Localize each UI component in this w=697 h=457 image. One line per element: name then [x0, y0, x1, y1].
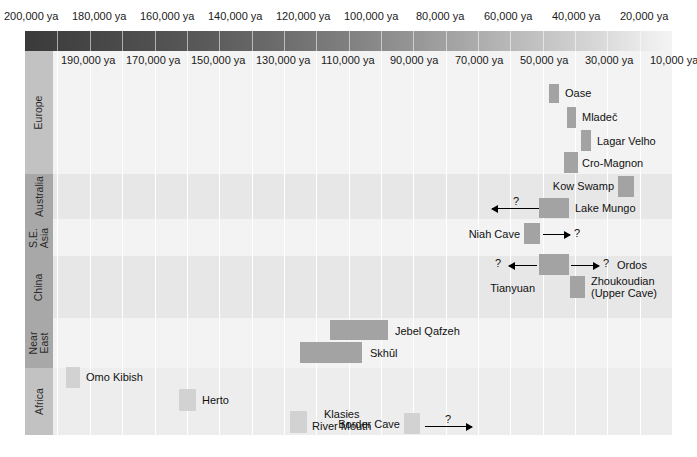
arrow-ordos-right: [571, 265, 599, 266]
axis-top-tick: 200,000 ya: [4, 10, 58, 22]
label-tianyuan: Tianyuan: [425, 282, 535, 294]
bar-zhoukoudian: [570, 276, 585, 298]
label-herto: Herto: [202, 394, 229, 406]
label-kow-swamp: Kow Swamp: [490, 180, 614, 192]
region-europe: Europe: [25, 51, 53, 174]
region-label: Near East: [28, 332, 50, 355]
bar-lake-mungo: [539, 198, 569, 218]
axis-top-tick: 180,000 ya: [72, 10, 126, 22]
axis-inner-tick: 170,000 ya: [126, 54, 180, 66]
bar-ordos: [539, 254, 569, 275]
axis-top-tick: 160,000 ya: [140, 10, 194, 22]
label-oase: Oase: [565, 87, 591, 99]
region-africa: Africa: [25, 368, 53, 435]
arrow-lake-mungo-left: [492, 208, 539, 209]
axis-top-tick: 40,000 ya: [552, 10, 600, 22]
bar-jebel-qafzeh: [330, 320, 388, 340]
time-gradient-bar: [25, 31, 672, 51]
arrow-niah-cave-right: [543, 234, 570, 235]
label-lake-mungo: Lake Mungo: [575, 202, 636, 214]
bar-mladec: [567, 107, 576, 128]
bar-skhul: [300, 342, 362, 363]
question-ordos-left: ?: [495, 257, 501, 269]
axis-top-tick: 60,000 ya: [484, 10, 532, 22]
axis-inner-tick: 150,000 ya: [191, 54, 245, 66]
region-label: Africa: [34, 388, 45, 415]
region-china: China: [25, 256, 53, 318]
label-niah-cave: Niah Cave: [400, 228, 520, 240]
bar-niah-cave: [524, 223, 540, 244]
axis-inner-tick: 30,000 ya: [585, 54, 633, 66]
region-label: Europe: [34, 96, 45, 130]
axis-top-tick: 140,000 ya: [208, 10, 262, 22]
bar-herto: [179, 389, 196, 411]
axis-inner-tick: 90,000 ya: [390, 54, 438, 66]
label-zhoukoudian-line2: (Upper Cave): [591, 287, 657, 299]
bar-omo-kibish: [66, 367, 80, 388]
axis-top-tick: 100,000 ya: [344, 10, 398, 22]
label-mladec: Mladeč: [582, 111, 617, 123]
arrow-border-cave-right: [425, 426, 472, 427]
label-ordos: Ordos: [617, 259, 647, 271]
region-se-asia: S.E. Asia: [25, 219, 53, 256]
bar-oase: [549, 84, 559, 103]
bar-kow-swamp: [618, 176, 634, 197]
label-omo-kibish: Omo Kibish: [86, 371, 143, 383]
bar-cro-magnon: [564, 152, 578, 173]
label-skhul: Skhūl: [370, 347, 398, 359]
bar-lagar-velho: [581, 130, 591, 151]
question-ordos-right: ?: [603, 257, 609, 269]
question-lake-mungo: ?: [513, 195, 519, 207]
region-australia: Australia: [25, 174, 53, 219]
axis-inner-tick: 190,000 ya: [61, 54, 115, 66]
bar-border-cave: [404, 413, 420, 434]
label-border-cave: Border Cave: [280, 418, 400, 430]
question-niah-cave: ?: [574, 227, 580, 239]
axis-inner-tick: 110,000 ya: [321, 54, 375, 66]
timeline-chart: 200,000 ya 180,000 ya 160,000 ya 140,000…: [0, 0, 697, 457]
region-label-column: Europe Australia S.E. Asia China Near Ea…: [25, 51, 53, 435]
axis-top: 200,000 ya 180,000 ya 160,000 ya 140,000…: [0, 10, 697, 26]
region-label: S.E. Asia: [28, 227, 50, 247]
axis-top-tick: 20,000 ya: [620, 10, 668, 22]
plot-area: 190,000 ya 170,000 ya 150,000 ya 130,000…: [25, 51, 672, 435]
axis-top-tick: 80,000 ya: [416, 10, 464, 22]
region-label: Australia: [34, 176, 45, 217]
region-label: China: [34, 273, 45, 300]
axis-inner-tick: 50,000 ya: [520, 54, 568, 66]
axis-inner-tick: 10,000 ya: [650, 54, 697, 66]
axis-top-tick: 120,000 ya: [276, 10, 330, 22]
region-near-east: Near East: [25, 318, 53, 368]
axis-inner-tick: 130,000 ya: [256, 54, 310, 66]
label-zhoukoudian-line1: Zhoukoudian: [591, 275, 655, 287]
axis-inner: 190,000 ya 170,000 ya 150,000 ya 130,000…: [25, 54, 672, 70]
label-jebel-qafzeh: Jebel Qafzeh: [395, 325, 460, 337]
question-border-cave: ?: [445, 413, 451, 425]
label-cro-magnon: Cro-Magnon: [582, 157, 643, 169]
axis-inner-tick: 70,000 ya: [455, 54, 503, 66]
arrow-ordos-left: [509, 265, 537, 266]
label-lagar-velho: Lagar Velho: [597, 135, 656, 147]
